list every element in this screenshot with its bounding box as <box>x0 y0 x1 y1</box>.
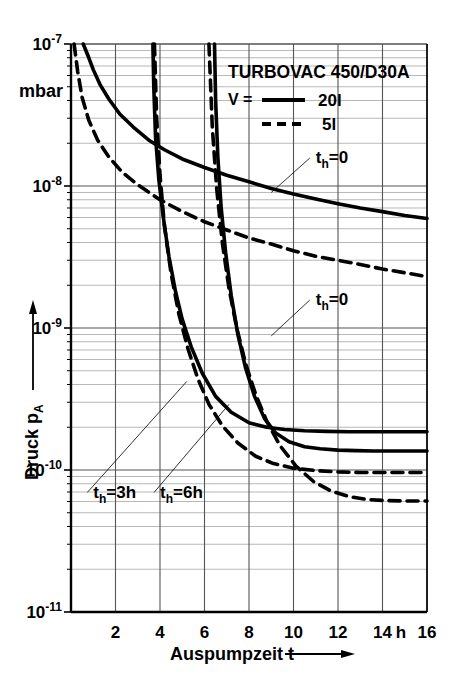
xtick-label-3: 8 <box>244 623 253 642</box>
xaxis-title: Auspumpzeit t <box>170 644 294 664</box>
yaxis-unit-mbar: mbar <box>19 81 63 101</box>
xtick-label-0: 2 <box>111 623 120 642</box>
xtick-label-5: 12 <box>329 623 348 642</box>
legend-label-5l: 5l <box>322 115 336 134</box>
xtick-label-6: 14 <box>373 623 392 642</box>
legend-label-20l: 20l <box>318 91 342 110</box>
xtick-label-2: 6 <box>200 623 209 642</box>
xtick-label-1: 4 <box>155 623 165 642</box>
xtick-label-4: 10 <box>284 623 303 642</box>
xtick-label-7: 16 <box>418 623 437 642</box>
legend-variable-label: V = <box>228 91 252 108</box>
legend-title: TURBOVAC 450/D30A <box>228 62 410 82</box>
chart-figure: 10-710-810-910-1010-11246810121416hmbarD… <box>0 0 457 678</box>
xaxis-unit-hours: h <box>396 623 406 642</box>
pumpdown-curve-chart: 10-710-810-910-1010-11246810121416hmbarD… <box>0 0 457 678</box>
